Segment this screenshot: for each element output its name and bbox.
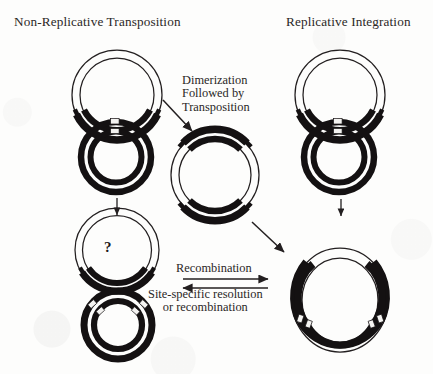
target-plasmid-right xyxy=(304,119,374,192)
donor-plasmid-left xyxy=(72,50,162,140)
donor-after-excision-left xyxy=(75,208,159,292)
arrow-dimerization xyxy=(163,100,192,131)
transposon-arc-top-inner xyxy=(190,139,241,150)
site-mark xyxy=(297,314,384,328)
target-plasmid-left xyxy=(81,119,151,192)
transposon-arc-inner xyxy=(89,268,146,283)
cointegrate-right xyxy=(292,248,388,352)
diagram-vector-layer xyxy=(0,0,433,374)
dimer-cointegrate-center xyxy=(171,129,259,221)
target-with-insert-left xyxy=(84,291,152,359)
donor-plasmid-right xyxy=(295,50,385,140)
unknown-outcome-label: ? xyxy=(104,239,112,256)
transposon-arc-bottom-inner xyxy=(190,201,241,212)
arrow-to-cointegrate xyxy=(252,222,284,252)
site-mark xyxy=(334,119,343,134)
site-mark xyxy=(111,119,120,134)
figure-canvas: Non-Replicative Transposition Replicativ… xyxy=(0,0,433,374)
